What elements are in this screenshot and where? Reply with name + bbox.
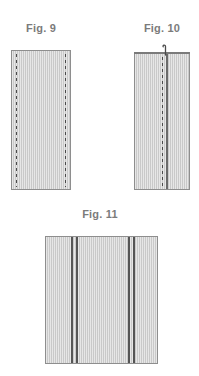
- figure-11-fabric-panel: [45, 236, 158, 364]
- figure-9-stitch-line-right: [65, 54, 66, 187]
- figure-10-caption: Fig. 10: [133, 22, 191, 34]
- figure-9-fabric-panel: [11, 50, 71, 190]
- figure-9-stitch-line-left: [16, 54, 17, 187]
- figure-11-seam-stripe-left-outer: [71, 237, 73, 363]
- figure-sheet: Fig. 9 Fig. 10 Fig. 11: [0, 0, 199, 376]
- figure-11-seam-stripe-right-inner: [128, 237, 130, 363]
- figure-10-fabric-panel: [134, 53, 190, 190]
- figure-11-seam-stripe-right-outer: [133, 237, 135, 363]
- figure-11-caption: Fig. 11: [70, 208, 130, 220]
- figure-10-stitch-line-center: [162, 57, 163, 188]
- figure-10-hook-mark: [158, 44, 172, 56]
- figure-9-caption: Fig. 9: [11, 22, 71, 34]
- figure-11-seam-stripe-left-inner: [76, 237, 78, 363]
- figure-10-fold-seam: [166, 54, 168, 189]
